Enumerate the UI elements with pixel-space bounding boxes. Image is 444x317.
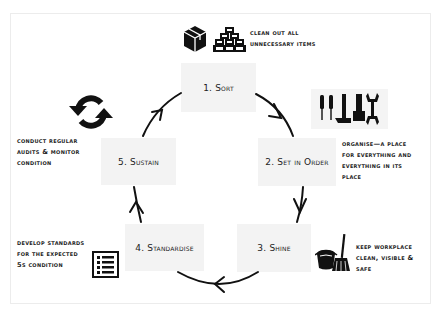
- box-icon: [183, 25, 207, 53]
- note-sustain: Conduct regular audits & monitor conditi…: [17, 136, 80, 169]
- note-set-in-order-line-2: for everything and: [342, 150, 411, 161]
- refresh-cycle-icon: [68, 93, 114, 131]
- tools-icon: [318, 93, 380, 125]
- note-standardise-line-2: for the expected: [17, 249, 84, 260]
- arrow-head-standardise-to-sustain: [130, 202, 143, 213]
- note-shine-line-2: clean, visible &: [356, 253, 414, 264]
- bucket-broom-icon: [315, 234, 351, 272]
- note-sustain-line-3: condition: [17, 158, 80, 169]
- note-set-in-order: Organise—A place for everything and ever…: [342, 139, 411, 183]
- note-sort-line-1: Clean out all: [250, 28, 316, 39]
- note-sustain-line-1: Conduct regular: [17, 136, 80, 147]
- arrow-sort-to-set-in-order: [256, 94, 293, 136]
- note-standardise-line-1: Develop standards: [17, 238, 84, 249]
- note-sort-line-2: unnecessary items: [250, 39, 316, 50]
- stacked-boxes-icon: [213, 27, 246, 52]
- note-set-in-order-line-3: everything in its: [342, 161, 411, 172]
- checklist-icon: [92, 251, 119, 278]
- note-sort: Clean out all unnecessary items: [250, 28, 316, 50]
- note-set-in-order-line-1: Organise—A place: [342, 139, 411, 150]
- note-shine: Keep workplace clean, visible & safe: [356, 242, 414, 275]
- note-shine-line-1: Keep workplace: [356, 242, 414, 253]
- arrow-set-in-order-to-shine: [297, 187, 303, 222]
- note-shine-line-3: safe: [356, 264, 414, 275]
- note-standardise: Develop standards for the expected 5S co…: [17, 238, 84, 271]
- note-set-in-order-line-4: place: [342, 172, 411, 183]
- note-standardise-line-3: 5S condition: [17, 260, 84, 271]
- note-sustain-line-2: audits & monitor: [17, 147, 80, 158]
